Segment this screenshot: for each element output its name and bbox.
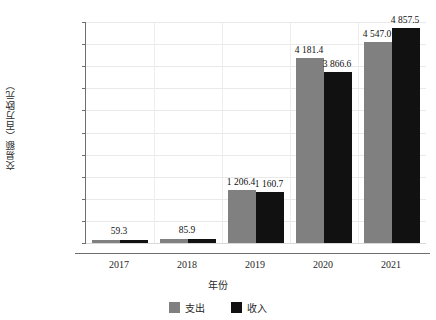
y-tick-mark [82,44,86,45]
bar-value-label: 59.3 [111,226,128,236]
x-axis-title: 年份 [0,277,436,292]
bar-2020-revenue[interactable] [324,72,352,243]
x-tick-label-2018: 2018 [177,259,197,270]
y-axis-title: 交易额（百万欧元） [2,60,20,190]
y-tick-mark [82,243,86,244]
legend-label: 收入 [247,300,267,315]
y-tick-mark [82,66,86,67]
y-tick-mark [82,133,86,134]
y-tick-mark [82,155,86,156]
legend-item-支出[interactable]: 支出 [169,300,205,315]
bar-2018-revenue[interactable] [188,239,216,243]
legend-swatch-icon [169,302,180,313]
plot-area: 05001 0001 5002 0002 5003 0003 5004 0004… [85,22,425,243]
bar-2019-expenditure[interactable] [228,190,256,243]
bar-2021-revenue[interactable] [392,28,420,243]
bar-chart: 交易额（百万欧元） 05001 0001 5002 0002 5003 0003… [0,0,436,320]
legend-label: 支出 [185,300,205,315]
bar-value-label: 4 857.5 [391,15,420,25]
bar-value-label: 85.9 [179,225,196,235]
y-tick-mark [82,22,86,23]
bar-2019-revenue[interactable] [256,192,284,243]
bar-value-label: 1 160.7 [255,179,284,189]
y-tick-mark [82,221,86,222]
bar-value-label: 1 206.4 [227,177,256,187]
bar-2021-expenditure[interactable] [364,42,392,243]
bar-2017-expenditure[interactable] [92,240,120,243]
bar-value-label: 4 547.0 [363,29,392,39]
gridline-vertical [222,22,223,243]
y-tick-mark [82,199,86,200]
x-tick-label-2017: 2017 [109,259,129,270]
gridline-vertical [358,22,359,243]
bar-group [228,22,284,243]
bar-value-label: 4 181.4 [295,45,324,55]
x-axis-line [75,253,430,254]
y-tick-mark [82,110,86,111]
gridline-vertical [154,22,155,243]
chart-legend: 支出收入 [0,300,436,315]
x-tick-label-2019: 2019 [245,259,265,270]
bar-group [92,22,148,243]
gridline-vertical [290,22,291,243]
x-tick-label-2020: 2020 [313,259,333,270]
y-tick-mark [82,88,86,89]
bar-group [160,22,216,243]
y-tick-mark [82,177,86,178]
bar-2020-expenditure[interactable] [296,58,324,243]
bar-value-label: 3 866.6 [323,59,352,69]
bar-group [364,22,420,243]
bar-2017-revenue[interactable] [120,240,148,243]
legend-swatch-icon [231,302,242,313]
bar-2018-expenditure[interactable] [160,239,188,243]
x-tick-label-2021: 2021 [381,259,401,270]
legend-item-收入[interactable]: 收入 [231,300,267,315]
gridline-horizontal [86,243,426,244]
